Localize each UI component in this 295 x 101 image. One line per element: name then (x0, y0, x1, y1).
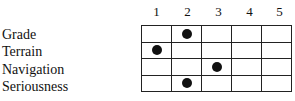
rating-dot-icon (212, 62, 222, 72)
column-header-3: 3 (203, 4, 234, 20)
row-label-grade: Grade (2, 26, 36, 43)
grid-cell (202, 59, 232, 76)
grid-cell (202, 75, 232, 92)
grid-cell (202, 26, 232, 43)
grid-row-terrain (142, 42, 292, 59)
grid-cell (262, 42, 292, 59)
grid-cell (262, 26, 292, 43)
grid-cell (202, 42, 232, 59)
rating-dot-icon (152, 45, 162, 55)
grid-cell (232, 75, 262, 92)
column-header-2: 2 (172, 4, 203, 20)
rating-dot-icon (182, 29, 192, 39)
rating-grid (141, 25, 292, 92)
grid-cell (172, 42, 202, 59)
grid-cell (172, 26, 202, 43)
grid-cell (142, 59, 172, 76)
grid-row-seriousness (142, 75, 292, 92)
column-header-5: 5 (264, 4, 295, 20)
row-label-navigation: Navigation (2, 61, 64, 78)
row-label-seriousness: Seriousness (2, 78, 68, 95)
row-label-terrain: Terrain (2, 43, 42, 60)
grid-cell (262, 59, 292, 76)
grid-row-navigation (142, 59, 292, 76)
grid-cell (142, 26, 172, 43)
column-header-1: 1 (141, 4, 172, 20)
grid-cell (262, 75, 292, 92)
grid-cell (142, 75, 172, 92)
grid-cell (172, 75, 202, 92)
grid-row-grade (142, 26, 292, 43)
grid-cell (142, 42, 172, 59)
grid-cell (232, 59, 262, 76)
grid-cell (232, 42, 262, 59)
grid-cell (172, 59, 202, 76)
rating-dot-icon (182, 78, 192, 88)
grid-cell (232, 26, 262, 43)
column-header-4: 4 (234, 4, 265, 20)
